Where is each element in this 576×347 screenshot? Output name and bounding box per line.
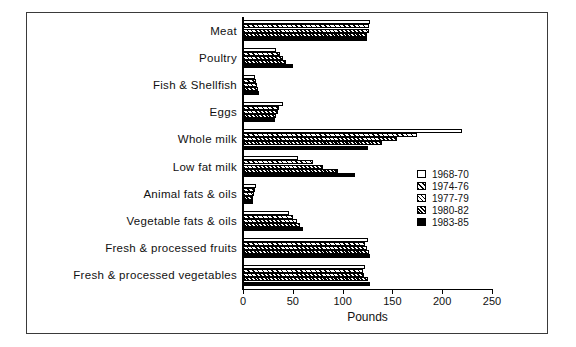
figure: 050100150200250 Pounds MeatPoultryFish &…: [0, 0, 576, 347]
legend-label: 1977-79: [432, 193, 469, 204]
legend-item: 1977-79: [417, 193, 493, 204]
category-label: Animal fats & oils: [1, 188, 237, 200]
x-tick: [392, 289, 393, 294]
bar-group: Meat: [243, 17, 492, 44]
bar: [243, 64, 293, 68]
legend-item: 1974-76: [417, 181, 493, 192]
bar: [243, 146, 368, 150]
bar-group: Eggs: [243, 99, 492, 126]
x-tick: [492, 289, 493, 294]
category-label: Low fat milk: [1, 161, 237, 173]
x-tick-label: 200: [422, 295, 462, 307]
legend-swatch: [417, 206, 426, 214]
legend-label: 1968-70: [432, 169, 469, 180]
bar: [243, 282, 370, 286]
legend-swatch: [417, 194, 426, 202]
x-tick-label: 100: [323, 295, 363, 307]
x-tick-label: 50: [273, 295, 313, 307]
x-tick-label: 150: [372, 295, 412, 307]
x-axis-label: Pounds: [243, 310, 492, 324]
x-tick: [243, 289, 244, 294]
legend: 1968-701974-761977-791980-821983-85: [417, 169, 493, 229]
bar: [243, 227, 303, 231]
legend-swatch: [417, 218, 426, 226]
x-tick-label: 0: [223, 295, 263, 307]
bar: [243, 118, 275, 122]
category-label: Whole milk: [1, 133, 237, 145]
bar-group: Whole milk: [243, 126, 492, 153]
bar: [243, 173, 355, 177]
legend-label: 1983-85: [432, 217, 469, 228]
x-tick: [293, 289, 294, 294]
bar: [243, 200, 253, 204]
bar-group: Poultry: [243, 44, 492, 71]
legend-swatch: [417, 182, 426, 190]
category-label: Fish & Shellfish: [1, 79, 237, 91]
bar: [243, 254, 370, 258]
category-label: Vegetable fats & oils: [1, 215, 237, 227]
plot-area: MeatPoultryFish & ShellfishEggsWhole mil…: [243, 17, 492, 289]
legend-label: 1974-76: [432, 181, 469, 192]
bar: [243, 37, 367, 41]
value-axis: [242, 289, 493, 290]
bar: [243, 91, 259, 95]
category-label: Eggs: [1, 106, 237, 118]
bar-group: Fresh & processed fruits: [243, 235, 492, 262]
bar-group: Fresh & processed vegetables: [243, 262, 492, 289]
category-label: Fresh & processed vegetables: [1, 269, 237, 281]
legend-swatch: [417, 170, 426, 178]
legend-item: 1968-70: [417, 169, 493, 180]
x-tick: [343, 289, 344, 294]
category-label: Fresh & processed fruits: [1, 242, 237, 254]
legend-label: 1980-82: [432, 205, 469, 216]
legend-item: 1983-85: [417, 217, 493, 228]
x-tick: [442, 289, 443, 294]
x-tick-label: 250: [472, 295, 512, 307]
bar-group: Fish & Shellfish: [243, 71, 492, 98]
category-label: Meat: [1, 25, 237, 37]
category-label: Poultry: [1, 52, 237, 64]
legend-item: 1980-82: [417, 205, 493, 216]
